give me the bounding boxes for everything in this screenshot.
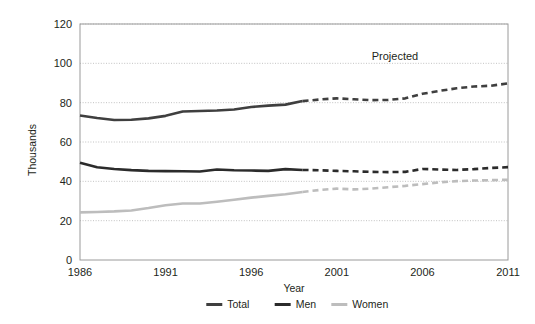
x-tick-label: 2006 (410, 266, 434, 278)
y-tick-label: 80 (60, 97, 72, 109)
y-tick-label: 20 (60, 215, 72, 227)
series-total (80, 83, 508, 120)
legend-label-total: Total (227, 298, 249, 310)
gridlines-group (80, 24, 508, 221)
series-line-projected-men (303, 167, 508, 172)
x-axis-title: Year (283, 282, 305, 294)
x-tick-label: 1991 (153, 266, 177, 278)
series-women (80, 180, 508, 213)
line-chart: 020406080100120 198619911996200120062011… (0, 0, 535, 324)
x-axis-tick-labels: 198619911996200120062011 (68, 266, 520, 278)
series-men (80, 163, 508, 172)
legend-item-total[interactable]: Total (206, 298, 249, 310)
legend-label-women: Women (352, 298, 388, 310)
legend-label-men: Men (296, 298, 317, 310)
y-axis-tick-labels: 020406080100120 (54, 18, 72, 266)
data-series-group (80, 83, 508, 212)
chart-container: 020406080100120 198619911996200120062011… (0, 0, 535, 324)
series-line-solid-women (80, 192, 303, 212)
projected-annotation-label: Projected (372, 50, 418, 62)
y-tick-label: 100 (54, 57, 72, 69)
y-tick-label: 60 (60, 136, 72, 148)
y-axis-title: Thousands (26, 124, 38, 176)
x-tick-label: 1996 (239, 266, 263, 278)
legend-item-women[interactable]: Women (331, 298, 388, 310)
x-tick-label: 2011 (496, 266, 520, 278)
x-tick-label: 1986 (68, 266, 92, 278)
y-tick-label: 120 (54, 18, 72, 30)
y-tick-label: 0 (66, 254, 72, 266)
series-line-solid-total (80, 101, 303, 120)
series-line-projected-total (303, 83, 508, 101)
y-tick-label: 40 (60, 175, 72, 187)
legend: TotalMenWomen (206, 298, 388, 310)
series-line-solid-men (80, 163, 303, 172)
x-tick-label: 2001 (325, 266, 349, 278)
legend-item-men[interactable]: Men (275, 298, 317, 310)
